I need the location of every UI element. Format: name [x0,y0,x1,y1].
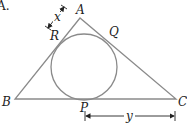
tangent-label-q: Q [109,25,119,39]
tangent-label-r: R [49,29,59,43]
dimension-y-label: y [125,109,133,123]
dimension-x-label: x [54,10,61,24]
triangle-incircle-figure: A. x y A B C R Q P [0,0,187,123]
tangent-label-p: P [79,101,89,115]
triangle-abc [15,18,176,99]
incircle [51,34,117,100]
vertex-label-a: A [75,3,85,17]
dimension-x-tick-top [61,5,67,9]
question-label: A. [0,0,9,13]
figure-svg: A. x y A B C R Q P [0,0,187,123]
vertex-label-c: C [178,95,187,109]
vertex-label-b: B [1,95,11,109]
